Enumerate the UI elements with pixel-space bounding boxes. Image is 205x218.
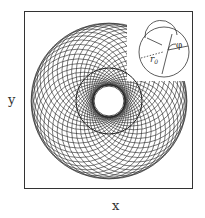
inset-large-circle <box>139 27 189 77</box>
inset-chord <box>147 38 162 45</box>
y-axis-label: y <box>8 92 15 107</box>
inset-radius-label: r0 <box>150 54 158 65</box>
inset-small-arc <box>145 20 177 38</box>
trajectory-circle <box>84 32 178 126</box>
x-axis-label: x <box>112 198 119 213</box>
inset-angle-label: φ <box>176 40 182 50</box>
inset-radius-line <box>162 34 172 74</box>
central-hole <box>94 86 124 116</box>
trajectory-pattern: r0 φ <box>0 0 205 218</box>
